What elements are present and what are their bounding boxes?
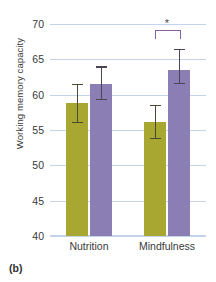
y-axis-tick-label: 55: [32, 124, 44, 136]
bar-mindfulness-post: [168, 70, 190, 236]
gridline: 70: [50, 24, 206, 25]
panel-label: (b): [9, 262, 22, 274]
error-bar-nutrition-pre: [72, 84, 83, 123]
error-bar-cap-top: [72, 84, 83, 85]
error-bar-mindfulness-post: [174, 49, 185, 84]
y-axis-tick-label: 40: [32, 230, 44, 242]
significance-asterisk: *: [165, 18, 169, 29]
error-bar-cap-bottom: [150, 138, 161, 139]
y-axis-tick-label: 60: [32, 89, 44, 101]
plot-area: 40455055606570*: [50, 24, 206, 236]
x-axis-label-nutrition: Nutrition: [69, 240, 108, 252]
error-bar-cap-top: [150, 105, 161, 106]
x-axis-label-mindfulness: Mindfulness: [139, 240, 195, 252]
y-axis-tick-label: 65: [32, 53, 44, 65]
y-axis-tick-label: 70: [32, 18, 44, 30]
error-bar-stem: [179, 49, 180, 84]
gridline: 40: [50, 236, 206, 237]
error-bar-cap-bottom: [72, 122, 83, 123]
error-bar-mindfulness-pre: [150, 105, 161, 140]
bar-nutrition-pre: [66, 103, 88, 236]
error-bar-cap-top: [96, 66, 107, 67]
bar-nutrition-post: [90, 84, 112, 236]
error-bar-stem: [77, 84, 78, 123]
error-bar-stem: [155, 105, 156, 140]
error-bar-nutrition-post: [96, 66, 107, 100]
y-axis-tick-label: 50: [32, 159, 44, 171]
significance-bracket: [155, 30, 181, 39]
error-bar-stem: [101, 66, 102, 100]
error-bar-cap-bottom: [174, 83, 185, 84]
figure-panel-b: Working memory capacity 40455055606570* …: [0, 0, 216, 282]
y-axis-tick-label: 45: [32, 195, 44, 207]
y-axis-title: Working memory capacity: [14, 9, 25, 179]
error-bar-cap-bottom: [96, 99, 107, 100]
error-bar-cap-top: [174, 49, 185, 50]
